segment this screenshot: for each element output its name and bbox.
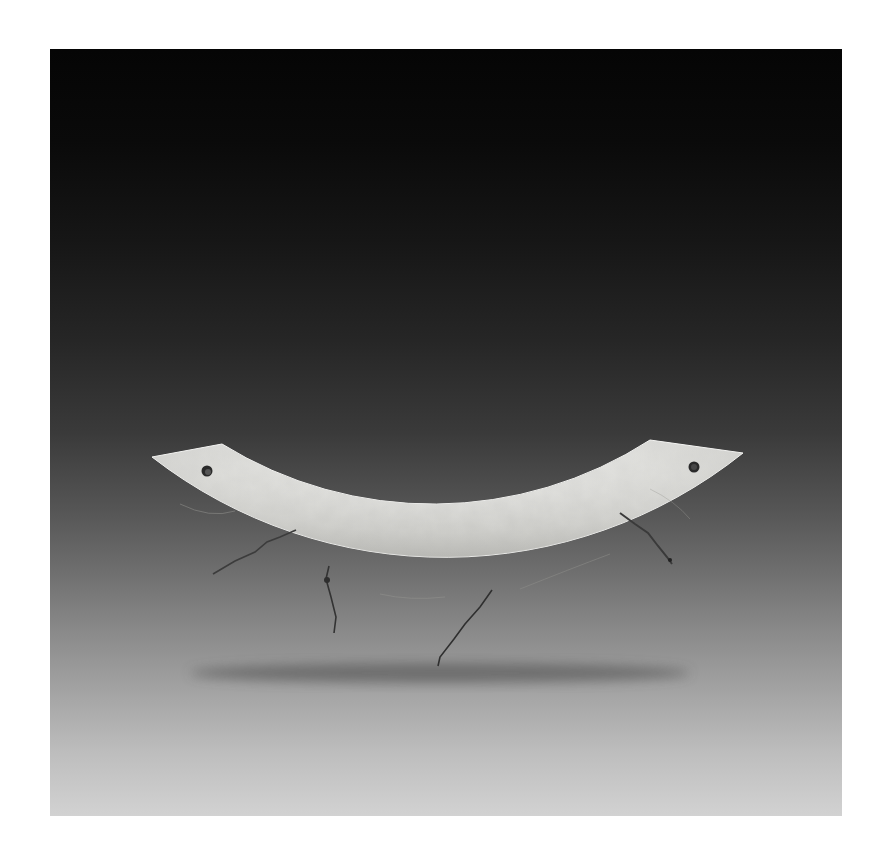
crack-right-center [438,590,492,666]
chip-right [668,558,672,562]
suspension-hole-right [689,462,700,473]
jade-huang-pendant-illustration [50,49,842,816]
crack-left-center [326,566,336,633]
crack-left [213,530,296,574]
suspension-hole-left [202,466,213,477]
jade-vein [180,504,235,514]
chip-left-center [324,577,330,583]
jade-vein [520,554,610,589]
cast-shadow [190,663,690,683]
jade-vein [380,594,445,598]
photograph [50,49,842,816]
